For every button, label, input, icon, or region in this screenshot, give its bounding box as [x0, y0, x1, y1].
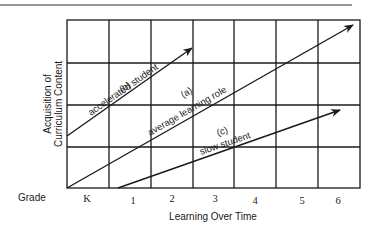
grade-1: 1	[130, 195, 135, 206]
grade-2: 2	[169, 193, 174, 204]
tag-a: (a)	[179, 84, 195, 99]
x-axis-label: Learning Over Time	[169, 211, 257, 222]
grade-ticks: K 1 2 3 4 5 6	[83, 193, 340, 206]
learning-rate-diagram: (b) accelerated student (a) average lear…	[0, 0, 375, 234]
grade-5: 5	[299, 195, 304, 206]
y-axis-label-line2: Curriculum Content	[53, 61, 64, 147]
grade-4: 4	[252, 195, 258, 206]
label-accelerated-student: accelerated student	[86, 61, 161, 118]
grade-label: Grade	[18, 192, 46, 203]
y-axis-label-line1: Acquisition of	[42, 74, 53, 134]
grade-3: 3	[212, 193, 217, 204]
grade-k: K	[83, 193, 91, 204]
grade-6: 6	[335, 195, 340, 206]
